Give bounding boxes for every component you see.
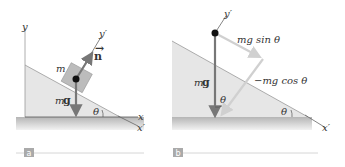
perpendicular-component-label: −mg cos θ: [254, 75, 307, 86]
x-label-a: x: [138, 111, 144, 122]
parallel-component-label: mg sin θ: [237, 34, 280, 45]
y-prime-label-a: y′: [98, 28, 108, 39]
weight-label-b-g: g: [202, 76, 210, 89]
mass-label: m: [56, 63, 65, 74]
angle-label-a: θ: [93, 106, 99, 117]
center-of-mass-b: [212, 30, 219, 37]
x-prime-label-a: x′: [137, 122, 146, 133]
panel-b: y′ x′ mg sin θ −mg cos θ m g θ θ b: [172, 8, 331, 158]
y-prime-label-b: y′: [223, 8, 233, 19]
weight-label-a-g: g: [63, 94, 71, 107]
angle-label-b-incline: θ: [281, 106, 287, 117]
y-label-a: y: [21, 21, 28, 32]
vector-arrow-icon: →: [95, 42, 104, 55]
center-of-mass-a: [73, 76, 80, 83]
panel-a: y y′ x x′ m n → m g θ a: [16, 21, 146, 158]
x-prime-label-b: x′: [322, 122, 331, 133]
ground-a: [16, 117, 144, 130]
svg-text:b: b: [176, 149, 181, 158]
inclined-plane-figure: y y′ x x′ m n → m g θ a y′ x′ mg sin θ −…: [0, 0, 345, 167]
svg-text:a: a: [27, 149, 32, 158]
ground-b: [172, 117, 312, 130]
angle-label-b-vertex: θ: [220, 94, 226, 105]
